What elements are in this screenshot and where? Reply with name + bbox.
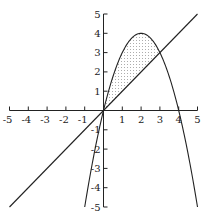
function-plot: -5-4-3-2-112345-5-4-3-2-112345 xyxy=(0,0,202,215)
shaded-region xyxy=(104,33,160,110)
x-tick-label: -4 xyxy=(21,114,31,125)
x-tick-label: 1 xyxy=(119,114,125,125)
x-tick-label: -5 xyxy=(3,114,13,125)
y-tick-label: 4 xyxy=(94,28,100,39)
x-tick-label: -3 xyxy=(40,114,50,125)
y-tick-label: -3 xyxy=(91,163,101,174)
x-tick-label: 3 xyxy=(157,114,163,125)
y-tick-label: 1 xyxy=(94,86,100,97)
shaded-area xyxy=(104,33,160,110)
x-tick-label: -1 xyxy=(78,114,88,125)
y-tick-label: -4 xyxy=(91,182,101,193)
x-tick-label: 2 xyxy=(138,114,144,125)
y-tick-label: 3 xyxy=(94,47,100,58)
y-tick-label: 5 xyxy=(94,9,100,20)
y-tick-label: 2 xyxy=(94,66,100,77)
x-tick-label: 5 xyxy=(194,114,200,125)
x-tick-label: 4 xyxy=(176,114,182,125)
y-tick-label: -5 xyxy=(91,202,101,213)
x-tick-label: -2 xyxy=(59,114,69,125)
y-tick-label: -2 xyxy=(91,144,101,155)
y-tick-label: -1 xyxy=(91,124,101,135)
